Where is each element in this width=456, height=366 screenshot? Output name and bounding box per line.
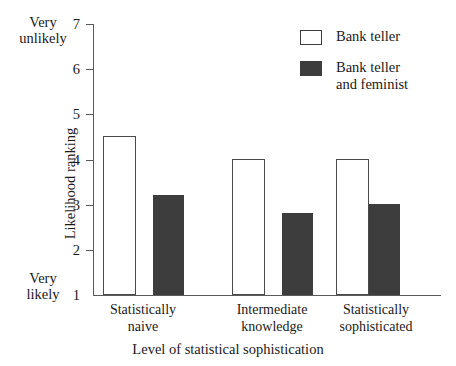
legend-item: Bank teller — [300, 28, 450, 45]
x-axis-category-label: Statisticallynaive — [85, 302, 201, 335]
legend-swatch-bank-teller-and-feminist — [300, 61, 322, 76]
legend-item: Bank teller and feminist — [300, 59, 450, 93]
x-axis-category-label-line2: naive — [85, 319, 201, 336]
bar-bank-teller — [336, 159, 369, 296]
bar-bank-teller — [103, 136, 136, 295]
x-axis-category-label: Statisticallysophisticated — [318, 302, 434, 335]
legend-item-label: Bank teller — [336, 28, 400, 45]
bar-bank-teller-and-feminist — [153, 195, 184, 295]
x-axis-category-label-line2: sophisticated — [318, 319, 434, 336]
chart-legend: Bank tellerBank teller and feminist — [300, 28, 450, 107]
x-axis-category-label: Intermediateknowledge — [214, 302, 330, 335]
x-axis-category-label-line1: Statistically — [85, 302, 201, 319]
legend-swatch-bank-teller — [300, 30, 322, 45]
bar-bank-teller — [232, 159, 265, 296]
legend-item-label: Bank teller and feminist — [336, 59, 408, 93]
x-axis-category-label-line2: knowledge — [214, 319, 330, 336]
x-axis-title: Level of statistical sophistication — [0, 341, 456, 358]
bar-chart-figure: Very unlikely Very likely Likelihood ran… — [0, 0, 456, 366]
x-axis-category-label-line1: Statistically — [318, 302, 434, 319]
bar-bank-teller-and-feminist — [369, 204, 400, 295]
x-axis-category-label-line1: Intermediate — [214, 302, 330, 319]
bar-bank-teller-and-feminist — [282, 213, 313, 295]
